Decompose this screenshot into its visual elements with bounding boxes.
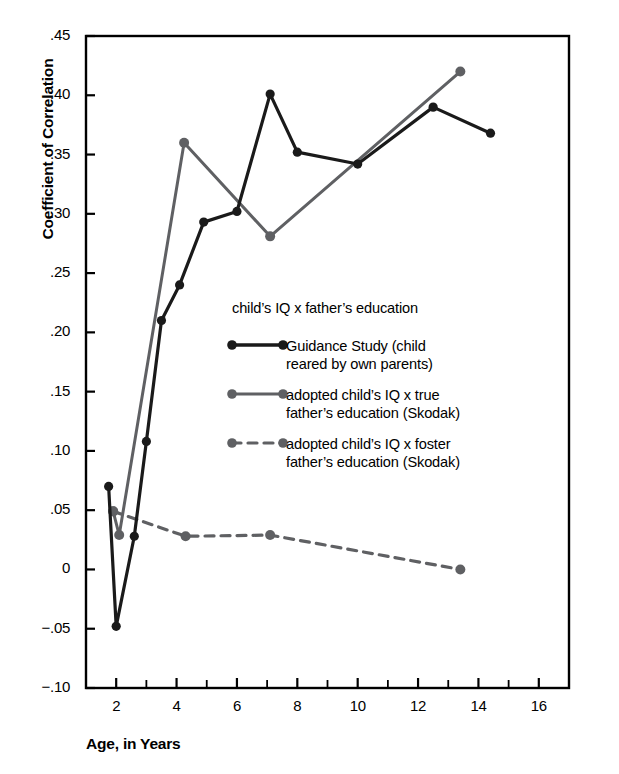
guidance-study-sample-marker-left <box>227 340 237 350</box>
guidance-study-point-1 <box>112 622 121 631</box>
guidance-study-point-2 <box>130 532 139 541</box>
adopted-true-father-point-2 <box>179 138 189 148</box>
guidance-study-point-8 <box>266 89 275 98</box>
guidance-study-point-6 <box>199 218 208 227</box>
legend-label-adopted-foster-father-line1: adopted child’s IQ x foster <box>286 435 450 454</box>
legend-label-adopted-true-father-line2: father’s education (Skodak) <box>286 404 460 423</box>
legend-label-adopted-foster-father-line2: father’s education (Skodak) <box>286 453 460 472</box>
guidance-study-point-11 <box>429 103 438 112</box>
adopted-foster-father-point-2 <box>265 530 275 540</box>
legend-label-guidance-study-line2: reared by own parents) <box>286 355 433 374</box>
guidance-study-point-4 <box>157 316 166 325</box>
adopted-foster-father-line <box>113 511 460 569</box>
guidance-study-point-5 <box>175 280 184 289</box>
legend-label-adopted-true-father-line1: adopted child’s IQ x true <box>286 386 439 405</box>
adopted-true-father-point-1 <box>114 530 124 540</box>
adopted-true-father-sample-marker-left <box>227 389 237 399</box>
guidance-study-point-12 <box>486 129 495 138</box>
guidance-study-point-10 <box>353 159 362 168</box>
adopted-true-father-point-3 <box>265 231 275 241</box>
adopted-foster-father-point-3 <box>455 564 465 574</box>
guidance-study-point-9 <box>293 148 302 157</box>
legend-heading: child’s IQ x father’s education <box>232 300 418 316</box>
guidance-study-point-7 <box>232 207 241 216</box>
adopted-foster-father-sample-marker-left <box>227 438 237 448</box>
guidance-study-point-0 <box>104 482 113 491</box>
legend-label-guidance-study-line1: Guidance Study (child <box>286 337 426 356</box>
legend-line-samples <box>227 340 288 448</box>
adopted-foster-father-point-1 <box>181 531 191 541</box>
guidance-study-point-3 <box>142 437 151 446</box>
correlation-line-chart: Coefficient of Correlation Age, in Years… <box>0 0 619 774</box>
adopted-true-father-point-4 <box>455 67 465 77</box>
